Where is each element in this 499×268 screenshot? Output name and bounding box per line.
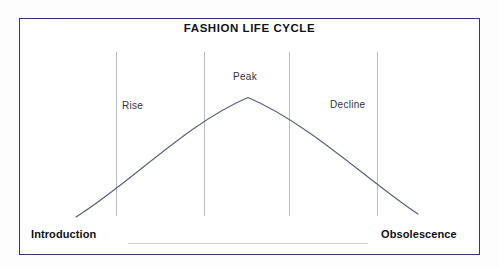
stage-label-decline: Decline [330, 99, 365, 110]
fashion-life-cycle-figure: FASHION LIFE CYCLE Rise Peak Decline Int… [0, 0, 499, 268]
stage-label-peak: Peak [233, 71, 257, 82]
stage-label-rise: Rise [122, 100, 143, 111]
stage-label-obsolescence: Obsolescence [381, 228, 457, 240]
page-title: FASHION LIFE CYCLE [0, 22, 499, 34]
diagram-frame [19, 18, 480, 255]
stage-label-introduction: Introduction [31, 228, 96, 240]
